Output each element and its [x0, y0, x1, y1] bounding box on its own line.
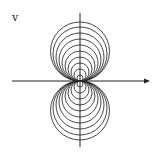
diagram-canvas: v: [0, 0, 155, 157]
vertical-axis-label: v: [11, 11, 19, 24]
arrowhead-icon: [144, 79, 150, 84]
